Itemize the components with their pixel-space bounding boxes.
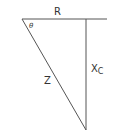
label-c-subscript: C — [98, 67, 104, 76]
impedance-line — [22, 19, 86, 130]
label-theta: θ — [29, 22, 34, 30]
label-z: Z — [44, 75, 51, 86]
label-r: R — [54, 6, 61, 17]
label-xc: XC — [91, 63, 104, 76]
impedance-triangle-diagram: R θ Z XC — [0, 0, 117, 136]
